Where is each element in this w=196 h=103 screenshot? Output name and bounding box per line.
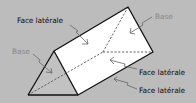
label-face-laterale-bottom: Face latérale [139, 87, 185, 94]
label-base-right: Base [155, 13, 173, 20]
triangular-prism-diagram: Face latérale Base Base Face latérale Fa… [0, 0, 196, 103]
label-base-left: Base [12, 48, 30, 55]
label-face-laterale-top: Face latérale [17, 17, 63, 24]
arrow-face-bottom [114, 79, 137, 89]
label-face-laterale-middle: Face latérale [139, 69, 185, 76]
